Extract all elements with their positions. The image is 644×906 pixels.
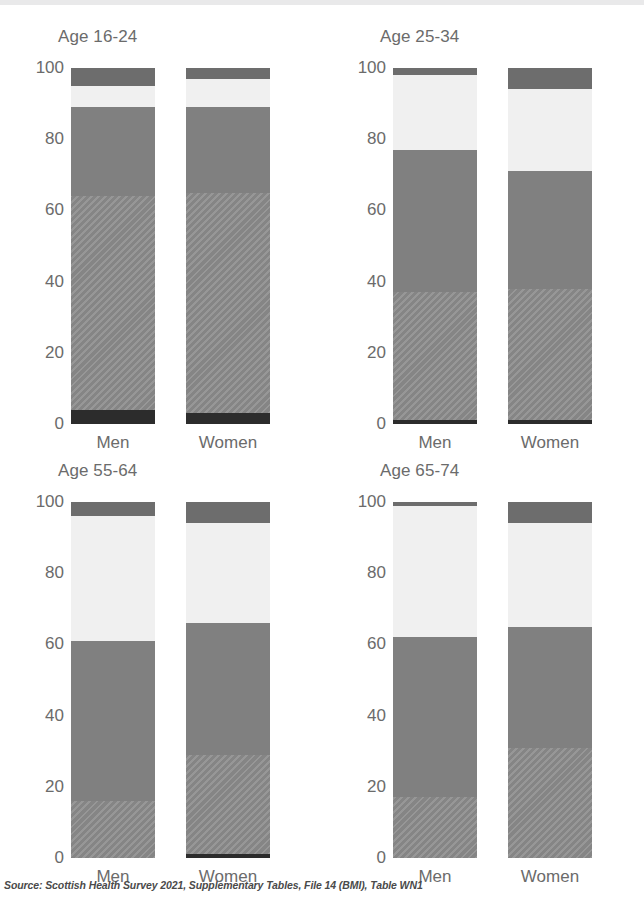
bar-segment-underweight bbox=[71, 410, 155, 424]
chart-panel-2: Age 25-34100806040200MenWomen bbox=[322, 5, 644, 439]
y-axis: 100806040200 bbox=[0, 5, 64, 439]
y-axis-tick-label: 80 bbox=[340, 563, 386, 583]
y-axis-tick-label: 100 bbox=[18, 58, 64, 78]
y-axis-tick-label: 20 bbox=[340, 343, 386, 363]
panel-title: Age 25-34 bbox=[380, 27, 459, 47]
y-axis-tick-label: 0 bbox=[340, 414, 386, 434]
bar-segment-overweight bbox=[71, 107, 155, 196]
chart-panel-4: Age 65-74100806040200MenWomen bbox=[322, 439, 644, 873]
bar-segment-healthy-weight bbox=[393, 797, 477, 858]
y-axis-tick-label: 100 bbox=[340, 58, 386, 78]
y-axis-tick-label: 40 bbox=[340, 272, 386, 292]
y-axis-tick-label: 40 bbox=[18, 706, 64, 726]
stacked-bar-women bbox=[508, 68, 592, 424]
stacked-bar-men bbox=[393, 502, 477, 858]
y-axis: 100806040200 bbox=[322, 439, 386, 873]
x-axis-label-women: Women bbox=[490, 867, 610, 887]
y-axis-tick-label: 0 bbox=[18, 414, 64, 434]
bar-segment-underweight bbox=[508, 420, 592, 424]
bar-segment-obese bbox=[186, 523, 270, 623]
y-axis-tick-label: 60 bbox=[18, 634, 64, 654]
bar-segment-underweight bbox=[393, 420, 477, 424]
bar-segment-overweight bbox=[186, 623, 270, 755]
y-axis-tick-label: 0 bbox=[340, 848, 386, 868]
bar-segment-overweight bbox=[393, 637, 477, 797]
bar-segment-morbidly-obese bbox=[71, 502, 155, 516]
chart-panel-grid: Age 16-24100806040200MenWomenAge 25-3410… bbox=[0, 5, 644, 873]
source-note: Source: Scottish Health Survey 2021, Sup… bbox=[4, 879, 423, 891]
bar-segment-healthy-weight bbox=[508, 289, 592, 421]
y-axis-tick-label: 40 bbox=[340, 706, 386, 726]
y-axis: 100806040200 bbox=[322, 5, 386, 439]
chart-panel-1: Age 16-24100806040200MenWomen bbox=[0, 5, 322, 439]
y-axis-tick-label: 20 bbox=[340, 777, 386, 797]
stacked-bar-men bbox=[71, 68, 155, 424]
bar-segment-obese bbox=[508, 89, 592, 171]
stacked-bar-women bbox=[186, 68, 270, 424]
y-axis-tick-label: 80 bbox=[340, 129, 386, 149]
bar-segment-healthy-weight bbox=[186, 193, 270, 414]
bar-segment-morbidly-obese bbox=[393, 68, 477, 75]
y-axis-tick-label: 40 bbox=[18, 272, 64, 292]
bar-segment-healthy-weight bbox=[186, 755, 270, 855]
bar-segment-overweight bbox=[71, 641, 155, 801]
y-axis-tick-label: 60 bbox=[18, 200, 64, 220]
y-axis-tick-label: 100 bbox=[340, 492, 386, 512]
bar-segment-morbidly-obese bbox=[508, 502, 592, 523]
y-axis-tick-label: 80 bbox=[18, 563, 64, 583]
y-axis-tick-label: 20 bbox=[18, 777, 64, 797]
bar-segment-overweight bbox=[508, 627, 592, 748]
bar-segment-obese bbox=[508, 523, 592, 626]
panel-title: Age 16-24 bbox=[58, 27, 137, 47]
y-axis-tick-label: 20 bbox=[18, 343, 64, 363]
bar-segment-morbidly-obese bbox=[186, 68, 270, 79]
bar-segment-morbidly-obese bbox=[186, 502, 270, 523]
bar-segment-underweight bbox=[186, 854, 270, 858]
bar-segment-obese bbox=[393, 506, 477, 638]
bar-segment-healthy-weight bbox=[393, 292, 477, 420]
y-axis-tick-label: 60 bbox=[340, 634, 386, 654]
bar-segment-morbidly-obese bbox=[508, 68, 592, 89]
y-axis-tick-label: 80 bbox=[18, 129, 64, 149]
bar-segment-healthy-weight bbox=[71, 801, 155, 858]
stacked-bar-women bbox=[186, 502, 270, 858]
bar-segment-overweight bbox=[508, 171, 592, 288]
bar-segment-morbidly-obese bbox=[71, 68, 155, 86]
bar-segment-obese bbox=[71, 86, 155, 107]
bar-segment-overweight bbox=[186, 107, 270, 192]
bar-segment-morbidly-obese bbox=[393, 502, 477, 506]
stacked-bar-men bbox=[71, 502, 155, 858]
bar-segment-healthy-weight bbox=[71, 196, 155, 410]
panel-title: Age 65-74 bbox=[380, 461, 459, 481]
bar-segment-obese bbox=[71, 516, 155, 641]
y-axis-tick-label: 0 bbox=[18, 848, 64, 868]
bar-segment-obese bbox=[186, 79, 270, 107]
bar-segment-healthy-weight bbox=[508, 748, 592, 858]
stacked-bar-men bbox=[393, 68, 477, 424]
chart-panel-3: Age 55-64100806040200MenWomen bbox=[0, 439, 322, 873]
panel-title: Age 55-64 bbox=[58, 461, 137, 481]
bar-segment-overweight bbox=[393, 150, 477, 292]
y-axis-tick-label: 60 bbox=[340, 200, 386, 220]
bar-segment-underweight bbox=[186, 413, 270, 424]
stacked-bar-women bbox=[508, 502, 592, 858]
y-axis-tick-label: 100 bbox=[18, 492, 64, 512]
y-axis: 100806040200 bbox=[0, 439, 64, 873]
bar-segment-obese bbox=[393, 75, 477, 150]
